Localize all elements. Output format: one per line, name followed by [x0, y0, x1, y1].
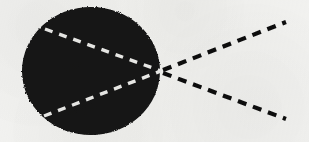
optics-figure	[0, 0, 309, 142]
emergent-lower-ray	[163, 73, 286, 119]
ray-diagram-canvas	[0, 0, 309, 142]
emergent-upper-ray	[163, 22, 286, 70]
